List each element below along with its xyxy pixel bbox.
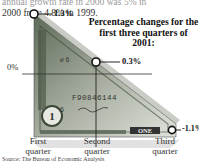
bill-ornament [38,30,46,110]
svg-text:ℯ 6: ℯ 6 [60,56,70,63]
svg-text:F90846144: F90846144 [72,94,117,102]
source-note: Source: The Bureau of Economic Analysis [2,156,104,162]
q2-value-label: 0.3% [122,56,141,66]
x-label-second-quarter: Second quarter [76,136,118,156]
svg-text:ONE: ONE [138,127,152,134]
svg-text:1: 1 [49,110,55,122]
data-point-q1 [30,10,38,18]
svg-text:6: 6 [60,106,64,113]
x-label-first-quarter: First quarter [18,136,58,156]
q3-value-label: -1.1% [182,124,199,133]
x-label-third-quarter: Third quarter [144,136,186,156]
data-point-q3 [168,126,175,133]
data-point-q2 [92,58,100,66]
zero-label: 0% [7,62,18,72]
q1-value-label: 1.3% [54,8,73,18]
